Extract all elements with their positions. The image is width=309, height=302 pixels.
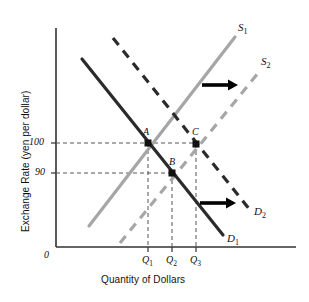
x-tick-label-q3-sub: 3	[197, 259, 201, 268]
exchange-rate-supply-demand-chart: Exchange Rate (yen per dollar) Quantity …	[0, 0, 309, 302]
point-label-a: A	[143, 127, 149, 137]
curve-label-demand-2: D2	[254, 206, 266, 220]
curve-supply-1	[89, 37, 235, 226]
x-tick-label-q1: Q1	[142, 255, 153, 268]
x-tick-label-q2-sub: 2	[173, 259, 177, 268]
x-tick-label-q2: Q2	[166, 255, 177, 268]
curve-label-demand-1: D1	[227, 233, 239, 247]
origin-label: 0	[44, 250, 49, 260]
y-tick-label-100: 100	[29, 137, 44, 147]
x-tick-label-q1-sub: 1	[149, 259, 153, 268]
curve-label-demand-2-text: D	[254, 205, 262, 217]
point-marker-a	[145, 140, 152, 147]
x-axis-title: Quantity of Dollars	[101, 274, 185, 285]
y-axis-title: Exchange Rate (yen per dollar)	[20, 91, 31, 232]
x-tick-label-q3: Q3	[190, 255, 201, 268]
curve-label-demand-1-sub: 1	[235, 238, 239, 247]
y-tick-label-90: 90	[35, 167, 45, 177]
curve-label-supply-1-sub: 1	[244, 27, 248, 36]
point-marker-b	[169, 170, 176, 177]
curve-label-supply-1: S1	[238, 22, 248, 36]
curve-label-supply-2-sub: 2	[267, 61, 271, 70]
point-label-c: C	[192, 127, 199, 137]
point-marker-c	[193, 141, 200, 148]
curve-label-demand-2-sub: 2	[262, 211, 266, 220]
curve-label-supply-2: S2	[261, 56, 271, 70]
demand-shift-arrow	[200, 198, 236, 209]
point-label-b: B	[169, 157, 175, 167]
curve-label-demand-1-text: D	[227, 232, 235, 244]
y-axis-title-wrapper: Exchange Rate (yen per dollar)	[2, 0, 24, 250]
supply-shift-arrow	[202, 80, 238, 91]
